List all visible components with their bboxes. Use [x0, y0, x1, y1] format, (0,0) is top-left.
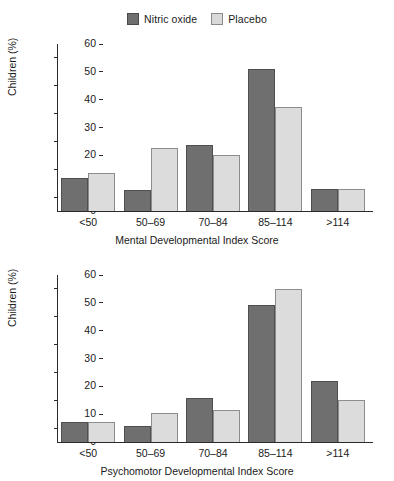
x-tick-label-pdi-4: >114 [307, 447, 369, 459]
bar-pdi-1-placebo [151, 413, 178, 442]
x-axis-label-mdi: Mental Developmental Index Score [0, 234, 394, 246]
x-tick-label-mdi-3: 85–114 [244, 216, 306, 228]
x-axis-line-pdi [57, 442, 373, 443]
bar-mdi-4-nitric-oxide [311, 189, 338, 211]
bar-group-mdi-1 [119, 44, 181, 211]
bar-group-pdi-0 [57, 275, 119, 442]
bar-pdi-0-nitric-oxide [61, 422, 88, 442]
bar-mdi-0-nitric-oxide [61, 178, 88, 211]
y-axis-label-mdi: Children (%) [6, 38, 18, 96]
bar-mdi-3-placebo [275, 107, 302, 211]
bar-group-mdi-2 [182, 44, 244, 211]
bar-mdi-3-nitric-oxide [248, 69, 275, 211]
bar-groups-mdi [57, 44, 369, 211]
bar-pdi-3-placebo [275, 289, 302, 442]
bar-mdi-0-placebo [88, 173, 115, 211]
x-tick-label-pdi-2: 70–84 [182, 447, 244, 459]
bar-group-mdi-4 [307, 44, 369, 211]
x-tick-label-pdi-0: <50 [57, 447, 119, 459]
legend-item-placebo: Placebo [211, 13, 267, 25]
x-tick-label-pdi-1: 50–69 [119, 447, 181, 459]
plot-area-pdi: 0102030405060 [57, 275, 369, 442]
plot-area-mdi: 0102030405060 [57, 44, 369, 211]
bar-pdi-2-placebo [213, 410, 240, 442]
y-axis-label-pdi: Children (%) [6, 269, 18, 327]
bar-group-mdi-0 [57, 44, 119, 211]
x-tick-label-pdi-3: 85–114 [244, 447, 306, 459]
bar-group-pdi-4 [307, 275, 369, 442]
x-tick-label-mdi-4: >114 [307, 216, 369, 228]
bar-group-pdi-3 [244, 275, 306, 442]
bar-pdi-4-placebo [338, 400, 365, 442]
square-filled-dark-icon [127, 13, 139, 25]
bar-mdi-2-nitric-oxide [186, 145, 213, 211]
chart-panel-psychomotor-developmental-index: Children (%) 0102030405060 <5050–6970–84… [0, 265, 394, 477]
legend-label-nitric-oxide: Nitric oxide [144, 14, 197, 25]
chart-panel-mental-developmental-index: Children (%) 0102030405060 <5050–6970–84… [0, 34, 394, 246]
square-filled-light-icon [211, 13, 223, 25]
bar-pdi-2-nitric-oxide [186, 398, 213, 442]
bar-mdi-4-placebo [338, 189, 365, 211]
x-tick-label-mdi-0: <50 [57, 216, 119, 228]
x-tick-label-mdi-2: 70–84 [182, 216, 244, 228]
bar-mdi-1-nitric-oxide [124, 190, 151, 211]
x-axis-line-mdi [57, 211, 373, 212]
figure-two-panel-bar-charts: Nitric oxide Placebo Children (%) 010203… [0, 0, 394, 481]
bar-group-pdi-1 [119, 275, 181, 442]
legend-item-nitric-oxide: Nitric oxide [127, 13, 197, 25]
bar-pdi-3-nitric-oxide [248, 305, 275, 442]
bar-pdi-0-placebo [88, 422, 115, 442]
legend-label-placebo: Placebo [228, 14, 267, 25]
bar-groups-pdi [57, 275, 369, 442]
bar-mdi-2-placebo [213, 155, 240, 211]
x-tick-label-mdi-1: 50–69 [119, 216, 181, 228]
chart-legend: Nitric oxide Placebo [0, 13, 394, 25]
x-axis-label-pdi: Psychomotor Developmental Index Score [0, 465, 394, 477]
bar-pdi-4-nitric-oxide [311, 381, 338, 442]
bar-group-mdi-3 [244, 44, 306, 211]
bar-group-pdi-2 [182, 275, 244, 442]
bar-mdi-1-placebo [151, 148, 178, 211]
bar-pdi-1-nitric-oxide [124, 426, 151, 442]
